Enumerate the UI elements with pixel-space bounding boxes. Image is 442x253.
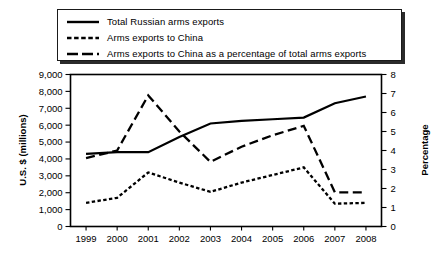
y-axis-right-tick-label: 2 — [391, 183, 396, 194]
legend-label: Total Russian arms exports — [107, 16, 224, 28]
y-axis-right: 012345678 — [382, 69, 396, 232]
x-axis-tick-label: 2002 — [169, 233, 190, 244]
x-axis-tick-label: 2000 — [107, 233, 128, 244]
x-axis-tick-label: 2003 — [200, 233, 221, 244]
y-axis-left-tick-label: 8,000 — [39, 86, 63, 97]
legend-item-total-russian-arms-exports: Total Russian arms exports — [66, 14, 395, 29]
series-line-dotted — [86, 167, 366, 203]
y-axis-right-tick-label: 6 — [391, 107, 396, 118]
x-axis-tick-label: 2008 — [355, 233, 376, 244]
chart-figure: Total Russian arms exports Arms exports … — [0, 0, 442, 253]
y-axis-right-tick-label: 7 — [391, 88, 396, 99]
y-axis-left-title: U.S. $ (millions) — [17, 114, 28, 185]
x-axis: 1999200020012002200320042005200620072008 — [75, 227, 376, 244]
y-axis-left-tick-label: 9,000 — [39, 69, 63, 80]
y-axis-left-tick-label: 3,000 — [39, 170, 63, 181]
legend-label: Arms exports to China as a percentage of… — [107, 48, 366, 60]
x-axis-tick-label: 2004 — [231, 233, 252, 244]
y-axis-right-tick-label: 0 — [391, 221, 396, 232]
series-line-dashed — [86, 95, 366, 192]
y-axis-left-tick-label: 1,000 — [39, 204, 63, 215]
y-axis-left-tick-label: 5,000 — [39, 136, 63, 147]
legend-item-arms-exports-percentage: Arms exports to China as a percentage of… — [66, 46, 395, 61]
y-axis-right-tick-label: 8 — [391, 69, 396, 80]
y-axis-right-tick-label: 4 — [391, 145, 396, 156]
chart-legend: Total Russian arms exports Arms exports … — [57, 9, 402, 61]
x-axis-tick-label: 2005 — [262, 233, 283, 244]
y-axis-right-tick-label: 3 — [391, 164, 396, 175]
y-axis-left-tick-label: 7,000 — [39, 103, 63, 114]
y-axis-right-tick-label: 1 — [391, 202, 396, 213]
dashed-line-swatch — [66, 48, 100, 60]
y-axis-left: 01,0002,0003,0004,0005,0006,0007,0008,00… — [39, 69, 71, 232]
solid-line-swatch — [66, 16, 100, 28]
dotted-line-swatch — [66, 32, 100, 44]
x-axis-tick-label: 2001 — [138, 233, 159, 244]
y-axis-right-title: Percentage — [419, 124, 430, 175]
x-axis-tick-label: 2006 — [293, 233, 314, 244]
y-axis-left-tick-label: 2,000 — [39, 187, 63, 198]
y-axis-left-tick-label: 4,000 — [39, 153, 63, 164]
y-axis-left-tick-label: 0 — [57, 221, 62, 232]
series-line-solid — [86, 96, 366, 153]
y-axis-left-tick-label: 6,000 — [39, 120, 63, 131]
legend-label: Arms exports to China — [107, 32, 203, 44]
x-axis-tick-label: 2007 — [324, 233, 345, 244]
legend-item-arms-exports-to-china: Arms exports to China — [66, 30, 395, 45]
series-lines — [86, 95, 366, 203]
y-axis-right-tick-label: 5 — [391, 126, 396, 137]
x-axis-tick-label: 1999 — [75, 233, 96, 244]
